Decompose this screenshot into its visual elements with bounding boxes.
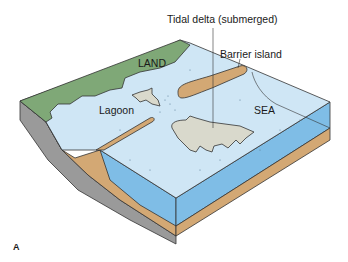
barrier-island-label: Barrier island [220,49,282,60]
sea-label: SEA [254,105,275,116]
panel-label: A [13,243,20,252]
barrier-island-block-diagram: Tidal delta (submerged) Barrier island L… [0,0,348,262]
block-diagram-illustration [0,0,348,262]
lagoon-label: Lagoon [99,105,134,116]
land-label: LAND [138,58,166,69]
tidal-delta-label: Tidal delta (submerged) [167,14,278,25]
